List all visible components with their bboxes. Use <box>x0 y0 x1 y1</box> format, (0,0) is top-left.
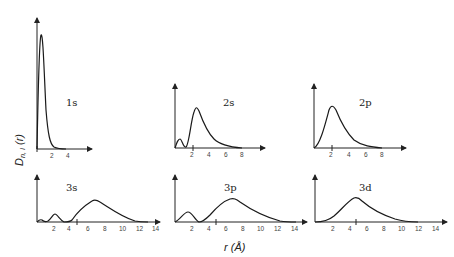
tick-label: 2 <box>329 151 333 158</box>
tick-label: 8 <box>380 151 384 158</box>
tick-label: 4 <box>66 152 70 159</box>
tick-label: 2 <box>190 151 194 158</box>
tick-label: 4 <box>348 225 352 232</box>
curve-2s <box>175 108 242 148</box>
tick-label: 6 <box>364 151 368 158</box>
panel-3p: 2 4 6 8 10 12 14 3p <box>175 175 307 232</box>
tick-label: 4 <box>67 225 71 232</box>
tick-label: 8 <box>240 151 244 158</box>
tick-label: 2 <box>52 225 56 232</box>
orbital-radial-distribution-figure: 2 4 1s 2 4 6 8 2s 2 4 6 8 2p 2 4 6 8 10 <box>0 0 454 257</box>
panel-label-2p: 2p <box>359 97 372 108</box>
panel-3d: 2 4 6 8 10 12 14 3d <box>315 175 447 232</box>
tick-label: 2 <box>50 152 54 159</box>
tick-label: 14 <box>432 225 440 232</box>
tick-label: 6 <box>224 225 228 232</box>
tick-label: 4 <box>207 151 211 158</box>
tick-label: 12 <box>136 225 144 232</box>
x-axis-label: r (Å) <box>224 241 246 253</box>
tick-label: 6 <box>86 225 90 232</box>
tick-label: 8 <box>382 225 386 232</box>
y-axis-label: Dn, l (r) <box>13 134 27 166</box>
tick-label: 14 <box>291 225 299 232</box>
svg-text:Dn, l (r): Dn, l (r) <box>13 134 27 166</box>
panel-label-3p: 3p <box>224 182 237 193</box>
curve-3s <box>37 200 148 222</box>
tick-label: 10 <box>119 225 127 232</box>
curve-1s <box>37 35 66 149</box>
tick-label: 4 <box>207 225 211 232</box>
panel-3s: 2 4 6 8 10 12 14 3s <box>37 175 160 232</box>
tick-label: 6 <box>224 151 228 158</box>
tick-label: 14 <box>152 225 160 232</box>
panel-1s: 2 4 1s <box>37 18 92 159</box>
tick-label: 10 <box>398 225 406 232</box>
curve-2p <box>314 106 382 148</box>
tick-label: 8 <box>241 225 245 232</box>
curve-3p <box>175 199 296 222</box>
panel-2p: 2 4 6 8 2p <box>314 84 406 158</box>
tick-label: 4 <box>347 151 351 158</box>
tick-label: 2 <box>331 225 335 232</box>
curve-3d <box>315 198 418 222</box>
tick-label: 12 <box>274 225 282 232</box>
tick-label: 2 <box>190 225 194 232</box>
panel-label-3s: 3s <box>66 182 78 193</box>
tick-label: 8 <box>103 225 107 232</box>
panel-label-2s: 2s <box>223 97 235 108</box>
panel-label-1s: 1s <box>66 97 78 108</box>
tick-label: 10 <box>257 225 265 232</box>
panel-label-3d: 3d <box>359 182 372 193</box>
panel-2s: 2 4 6 8 2s <box>175 84 265 158</box>
tick-label: 6 <box>365 225 369 232</box>
tick-label: 12 <box>415 225 423 232</box>
